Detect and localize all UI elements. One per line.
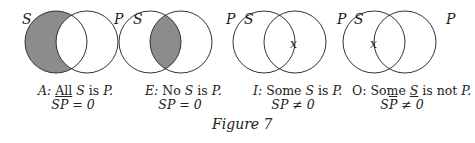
label-s-i: S bbox=[244, 12, 254, 26]
mark-x-i: x bbox=[290, 37, 297, 51]
label-s-o: S bbox=[354, 12, 364, 26]
label-s-a: S bbox=[22, 12, 32, 26]
label-p-e: P bbox=[226, 12, 235, 26]
label-p-i: P bbox=[337, 12, 346, 26]
caption-e: E: No S is P. SP = 0 bbox=[145, 84, 215, 112]
caption-i: I: Some S is P. SP ≠ 0 bbox=[253, 84, 333, 112]
caption-o: O: Some S is not P. SP ≠ 0 bbox=[352, 84, 452, 112]
label-s-e: S bbox=[133, 12, 143, 26]
label-p-o: P bbox=[446, 12, 455, 26]
mark-x-o: x bbox=[370, 37, 377, 51]
caption-a: A: All S is P. SP = 0 bbox=[38, 84, 108, 112]
label-p-a: P bbox=[114, 12, 123, 26]
figure-caption: Figure 7 bbox=[212, 116, 273, 132]
venn-a bbox=[25, 11, 118, 73]
